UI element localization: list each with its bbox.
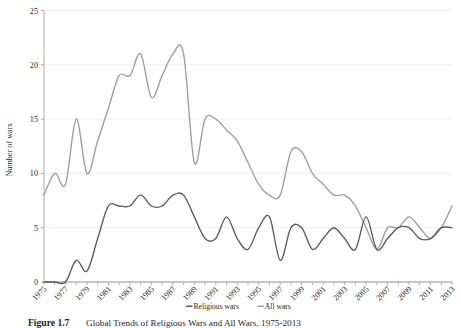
- figure-container: 0510152025 19751977197919811983198519871…: [0, 0, 461, 328]
- y-tick-label-20: 20: [30, 61, 38, 70]
- y-tick-label-10: 10: [30, 169, 38, 178]
- y-tick-label-0: 0: [34, 278, 38, 287]
- y-tick-label-15: 15: [30, 115, 38, 124]
- figure-caption: Figure 1.7Global Trends of Religious War…: [28, 317, 301, 328]
- caption-body: Global Trends of Religious Wars and All …: [86, 318, 301, 328]
- legend-label-all-wars: All wars: [265, 302, 291, 311]
- chart-legend: Religious warsAll wars: [186, 302, 291, 311]
- y-axis-label: Number of wars: [5, 123, 14, 176]
- legend-label-religious-wars: Religious wars: [194, 302, 239, 311]
- caption-label: Figure 1.7: [28, 317, 70, 328]
- y-tick-label-25: 25: [30, 7, 38, 16]
- line-chart: 0510152025 19751977197919811983198519871…: [0, 0, 461, 328]
- y-tick-label-5: 5: [34, 224, 38, 233]
